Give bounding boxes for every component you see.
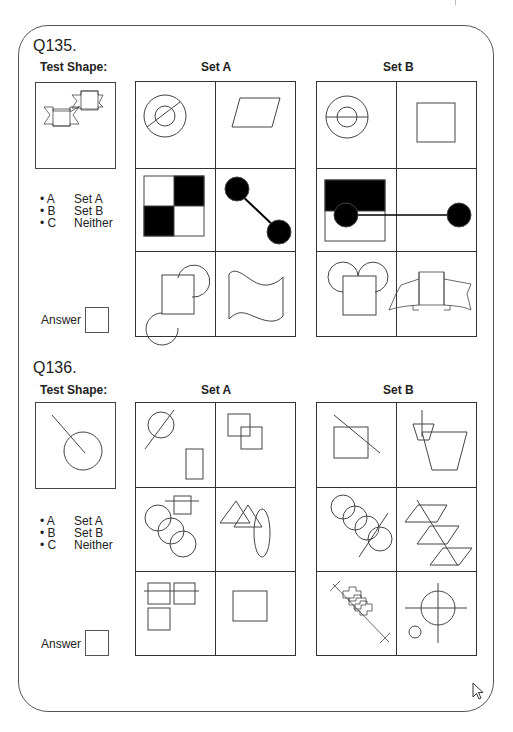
wavy-flag xyxy=(229,271,283,321)
circle-line-rectangle xyxy=(145,410,203,479)
trapezoids-line xyxy=(413,410,467,470)
square-two-half-circles xyxy=(146,265,210,345)
two-overlapping-squares xyxy=(228,414,262,449)
three-squares-line xyxy=(144,583,199,630)
test-shape-banners xyxy=(44,91,103,126)
concentric-circles-diagonal xyxy=(144,95,186,137)
figures-layer xyxy=(0,0,513,732)
arrow-cursor-icon xyxy=(473,683,483,699)
banner-ribbon xyxy=(389,272,471,310)
circles-square-line xyxy=(145,496,199,557)
parallelogram xyxy=(232,98,280,127)
concentric-circles-horizontal xyxy=(326,96,368,138)
parallelograms-line xyxy=(405,500,472,566)
crosses-diagonal-line xyxy=(330,581,390,643)
dumbbell-diagonal xyxy=(225,177,291,244)
circle-crosshair-small-circle xyxy=(405,583,467,643)
square-diagonal-line xyxy=(334,415,380,458)
square-two-circles-top xyxy=(328,262,388,315)
square xyxy=(417,103,455,142)
checkerboard xyxy=(144,176,204,236)
triangles-ellipse xyxy=(220,501,270,557)
dumbbell-horizontal xyxy=(334,203,471,227)
set-a-grid xyxy=(136,403,296,656)
four-circles-line xyxy=(331,495,392,557)
rectangle xyxy=(233,591,267,621)
test-shape-box xyxy=(36,403,116,489)
test-shape-circle-line xyxy=(52,415,102,470)
